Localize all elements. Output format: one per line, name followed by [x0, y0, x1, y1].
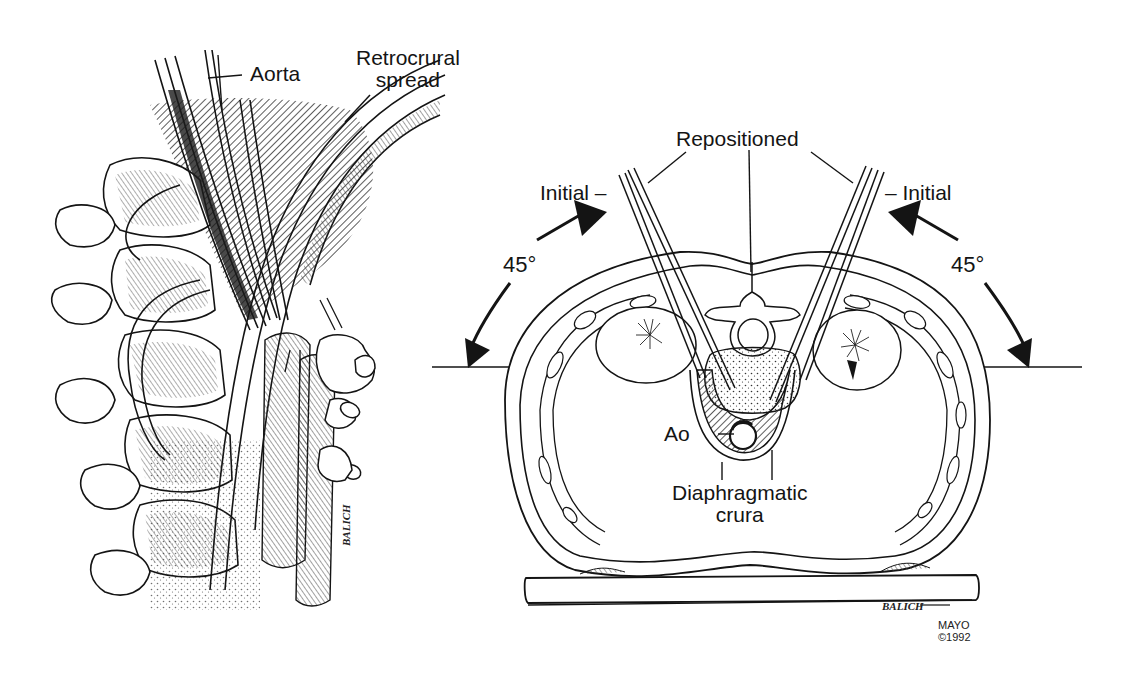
right-artist-signature: BALICH [882, 600, 924, 612]
label-diaphragmatic-crura: Diaphragmatic crura [672, 482, 807, 526]
label-crura-line2: crura [672, 504, 807, 526]
label-aorta: Aorta [250, 63, 300, 85]
label-retrocrural-line2: spread [356, 69, 460, 91]
retrocrural-leader-line [345, 95, 370, 122]
label-angle-left: 45° [503, 253, 536, 276]
label-retrocrural-line1: Retrocrural [356, 47, 460, 69]
label-ao: Ao [664, 423, 690, 445]
lateral-spine-drawing [0, 0, 1125, 688]
label-initial-left: Initial – [540, 182, 607, 204]
label-initial-right: – Initial [885, 182, 952, 204]
left-kidney [596, 307, 696, 383]
mayo-credit: MAYO ©1992 [938, 620, 971, 643]
mayo-credit-line1: MAYO [938, 620, 971, 632]
aorta-leader-line [208, 75, 242, 78]
right-kidney [813, 310, 901, 390]
label-angle-right: 45° [951, 253, 984, 276]
ct-table [525, 575, 979, 603]
mayo-credit-line2: ©1992 [938, 632, 971, 644]
label-retrocrural-spread: Retrocrural spread [356, 47, 460, 91]
label-repositioned: Repositioned [676, 128, 799, 150]
left-artist-signature: BALICH [340, 504, 352, 546]
medical-illustration: Aorta Retrocrural spread BALICH Repositi… [0, 0, 1125, 688]
label-crura-line1: Diaphragmatic [672, 482, 807, 504]
